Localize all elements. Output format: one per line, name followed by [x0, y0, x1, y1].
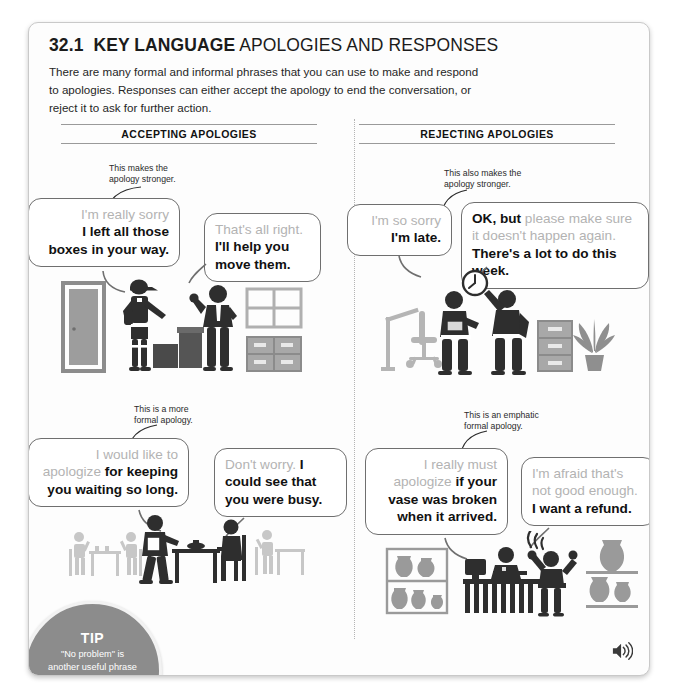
speech-bubble-apology-4: I really must apologize if your vase was… — [365, 448, 508, 535]
column-divider — [354, 119, 355, 639]
speech-bubble-apology-1: I'm really sorry I left all those boxes … — [28, 198, 180, 267]
audio-speaker-icon[interactable] — [611, 641, 633, 661]
tip-label: TIP — [81, 630, 104, 646]
title-rest: APOLOGIES AND RESPONSES — [235, 35, 498, 55]
page-title: 32.1 KEY LANGUAGE APOLOGIES AND RESPONSE… — [49, 35, 498, 56]
column-heading-rejecting: REJECTING APOLOGIES — [359, 124, 615, 144]
intro-paragraph: There are many formal and informal phras… — [49, 63, 489, 117]
office-late-arrival-clock-illustration — [379, 269, 639, 381]
unit-number: 32.1 — [49, 35, 83, 55]
restaurant-waiting-table-illustration — [59, 513, 329, 591]
tip-callout: TIP "No problem" is another useful phras… — [28, 601, 162, 676]
tip-body: "No problem" is another useful phrase fo… — [31, 648, 154, 676]
lesson-page-card: 32.1 KEY LANGUAGE APOLOGIES AND RESPONSE… — [28, 22, 650, 676]
speech-bubble-apology-2: I would like to apologize for keeping yo… — [28, 438, 189, 507]
speech-bubble-apology-3: I'm so sorry I'm late. — [347, 204, 452, 256]
column-heading-accepting: ACCEPTING APOLOGIES — [61, 124, 317, 144]
shop-broken-vase-complaint-illustration — [381, 531, 646, 617]
office-delivery-boxes-illustration — [55, 271, 325, 379]
speech-bubble-response-4: I'm afraid that's not good enough. I wan… — [521, 457, 650, 526]
title-keyword: KEY LANGUAGE — [93, 35, 235, 55]
speech-bubble-response-2: Don't worry. I could see that you were b… — [214, 448, 347, 517]
